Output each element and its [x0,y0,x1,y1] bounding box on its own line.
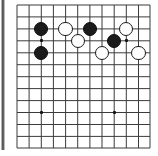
white-stone-2[interactable] [71,34,85,48]
hoshi-lower-right [113,111,116,114]
board-grid [0,0,158,156]
white-stone-1[interactable] [58,22,72,36]
white-stone-5[interactable] [131,46,145,60]
black-stone-3[interactable] [83,22,97,36]
go-board-surface[interactable] [0,0,158,156]
go-board-figure [0,0,158,156]
white-stone-3[interactable] [95,46,109,60]
hoshi-lower-left [40,111,43,114]
